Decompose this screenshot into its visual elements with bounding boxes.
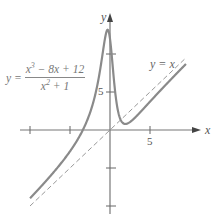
function-equation: y = x3 − 8x + 12 x2 + 1 <box>6 63 85 92</box>
chart-canvas <box>0 0 223 218</box>
x-axis-label: x <box>205 124 210 136</box>
x-axis-arrow-icon <box>192 127 201 133</box>
equation-numerator: x3 − 8x + 12 <box>25 63 85 78</box>
y-axis-label: y <box>101 11 106 23</box>
asymptote-label: y = x <box>150 58 175 70</box>
x-tick-label-5: 5 <box>147 136 153 147</box>
y-tick-label-5: 5 <box>98 86 104 97</box>
equation-lhs: y = <box>6 72 22 84</box>
function-curve <box>30 30 186 199</box>
y-axis-arrow-icon <box>107 13 113 22</box>
equation-denominator: x2 + 1 <box>41 78 69 92</box>
